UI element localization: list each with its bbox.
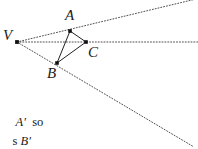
point-label-b: B <box>47 66 56 81</box>
edge-A-C <box>70 31 86 42</box>
caption-line-2: s B′ <box>0 122 31 149</box>
point-label-c: C <box>88 45 98 60</box>
figure-page: V A C B A′ so s B′ <box>0 0 198 149</box>
point-label-v: V <box>3 28 12 43</box>
vertex-dot-A <box>68 29 72 33</box>
ray-V-through-A <box>17 0 196 42</box>
caption-line-2-word: s <box>13 134 21 148</box>
vertex-dot-V <box>15 40 19 44</box>
point-label-a: A <box>65 8 74 23</box>
ray-V-through-B <box>17 42 194 147</box>
caption-line-2-symbol: B′ <box>21 134 31 148</box>
